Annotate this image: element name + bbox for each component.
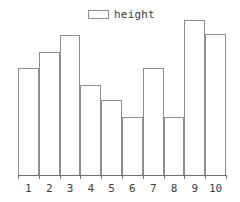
x-tick-label-7: 7 <box>150 183 157 195</box>
x-tick-6 <box>122 175 123 179</box>
bar-8 <box>164 117 185 175</box>
x-tick-end <box>226 175 227 179</box>
bar-9 <box>184 20 205 175</box>
x-tick-label-2: 2 <box>46 183 53 195</box>
x-tick-3 <box>60 175 61 179</box>
plot-area <box>18 18 226 175</box>
bar-7 <box>143 68 164 175</box>
x-tick-1 <box>18 175 19 179</box>
bar-3 <box>60 35 81 175</box>
x-tick-label-10: 10 <box>209 183 222 195</box>
x-tick-label-3: 3 <box>67 183 74 195</box>
x-tick-5 <box>101 175 102 179</box>
x-tick-label-9: 9 <box>191 183 198 195</box>
x-tick-label-6: 6 <box>129 183 136 195</box>
bar-10 <box>205 34 226 175</box>
x-tick-8 <box>164 175 165 179</box>
x-tick-7 <box>143 175 144 179</box>
bar-6 <box>122 117 143 175</box>
x-tick-10 <box>205 175 206 179</box>
x-tick-label-1: 1 <box>25 183 32 195</box>
bar-1 <box>18 68 39 175</box>
x-tick-4 <box>80 175 81 179</box>
bar-2 <box>39 52 60 175</box>
x-tick-label-4: 4 <box>87 183 94 195</box>
bar-4 <box>80 85 101 175</box>
x-tick-2 <box>39 175 40 179</box>
bar-5 <box>101 100 122 175</box>
x-tick-label-5: 5 <box>108 183 115 195</box>
x-tick-label-8: 8 <box>171 183 178 195</box>
x-tick-9 <box>184 175 185 179</box>
bar-chart: height 12345678910 <box>0 0 240 202</box>
